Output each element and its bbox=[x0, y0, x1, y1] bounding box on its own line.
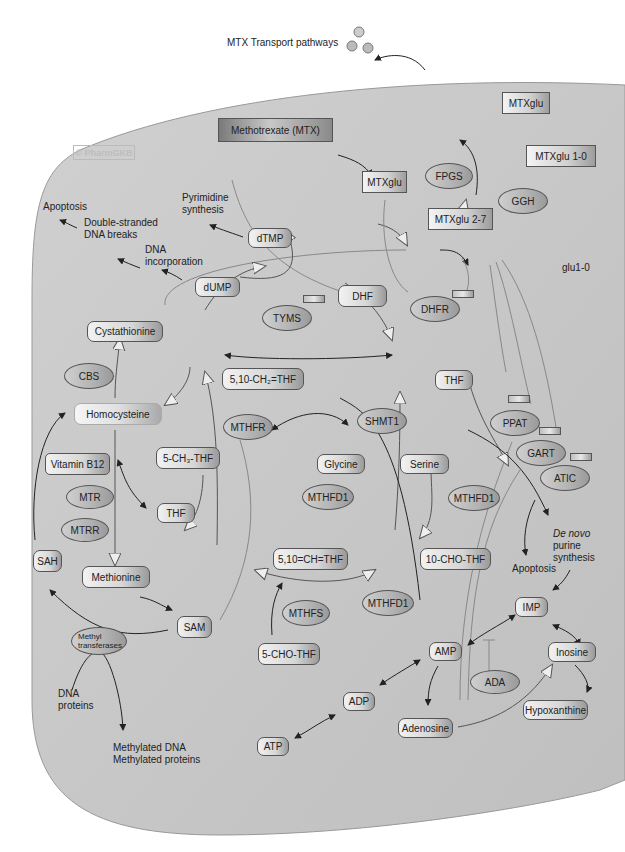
hypoxanthine-node[interactable]: Hypoxanthine bbox=[523, 700, 588, 720]
atp-node[interactable]: ATP bbox=[257, 737, 289, 756]
tyms-enzyme[interactable]: TYMS bbox=[262, 305, 312, 331]
dna-proteins-label: DNAproteins bbox=[58, 688, 94, 712]
methylated-line2: Methylated proteins bbox=[113, 754, 200, 766]
cbs-enzyme[interactable]: CBS bbox=[64, 363, 114, 389]
apoptosis-label-purine: Apoptosis bbox=[512, 563, 556, 575]
dtmp-node[interactable]: dTMP bbox=[248, 228, 292, 248]
transport-molecules-icon bbox=[346, 26, 374, 56]
methylated-products-label: Methylated DNAMethylated proteins bbox=[113, 742, 200, 766]
methylated-line1: Methylated DNA bbox=[113, 742, 200, 754]
fpgs-enzyme[interactable]: FPGS bbox=[425, 163, 473, 189]
serine-node[interactable]: Serine bbox=[400, 454, 449, 474]
adp-node[interactable]: ADP bbox=[343, 692, 375, 711]
mtr-enzyme[interactable]: MTR bbox=[66, 485, 114, 509]
mthfs-enzyme[interactable]: MTHFS bbox=[282, 600, 330, 626]
de-novo-purine-label: De novopurinesynthesis bbox=[553, 528, 595, 564]
imp-node[interactable]: IMP bbox=[515, 597, 548, 617]
inosine-node[interactable]: Inosine bbox=[548, 642, 596, 662]
mtxglu-out-node[interactable]: MTXglu bbox=[502, 92, 550, 114]
mtxglu-2-7-node[interactable]: MTXglu 2-7 bbox=[428, 208, 493, 230]
mthfd1-enzyme-bottom[interactable]: MTHFD1 bbox=[362, 590, 414, 616]
amp-node[interactable]: AMP bbox=[429, 642, 462, 661]
dna-incorp-line2: incorporation bbox=[145, 256, 203, 268]
mtx-pathway-diagram: © PharmGKB MTX Transport pathways Methot… bbox=[0, 0, 625, 852]
mtxglu-node[interactable]: MTXglu bbox=[362, 171, 407, 193]
pyrimidine-line2: synthesis bbox=[182, 204, 229, 216]
dhfr-enzyme[interactable]: DHFR bbox=[410, 296, 460, 322]
homocysteine-node[interactable]: Homocysteine bbox=[74, 403, 162, 425]
glycine-node[interactable]: Glycine bbox=[317, 454, 365, 474]
inhibition-bar-atic bbox=[570, 453, 592, 461]
methyltransferases-enzyme[interactable]: Methyl transferases bbox=[71, 627, 127, 655]
inhibition-bar-gart bbox=[539, 427, 561, 435]
denovo-line1: De novo bbox=[553, 528, 595, 540]
pyrimidine-line1: Pyrimidine bbox=[182, 192, 229, 204]
5-cho-thf-node[interactable]: 5-CHO-THF bbox=[258, 643, 320, 665]
dna-proteins-line1: DNA bbox=[58, 688, 94, 700]
thf-node-left[interactable]: THF bbox=[157, 503, 195, 523]
inhibition-bar-ppat bbox=[508, 395, 530, 403]
dna-incorp-line1: DNA bbox=[145, 244, 203, 256]
inhibition-bar-dhfr bbox=[452, 290, 474, 298]
ch3-thf-node[interactable]: 5-CH₃-THF bbox=[156, 447, 220, 469]
ch2-thf-node[interactable]: 5,10-CH₂=THF bbox=[222, 368, 304, 390]
dsb-line2: DNA breaks bbox=[84, 229, 158, 241]
vitamin-b12-node[interactable]: Vitamin B12 bbox=[45, 453, 110, 475]
atic-enzyme[interactable]: ATIC bbox=[540, 465, 590, 491]
mthfd1-enzyme-upper-left[interactable]: MTHFD1 bbox=[302, 484, 354, 510]
methotrexate-node[interactable]: Methotrexate (MTX) bbox=[218, 118, 333, 142]
dump-node[interactable]: dUMP bbox=[195, 277, 240, 297]
sam-node[interactable]: SAM bbox=[177, 616, 212, 638]
sah-node[interactable]: SAH bbox=[33, 550, 62, 572]
mtxglu-1-0-node[interactable]: MTXglu 1-0 bbox=[526, 145, 596, 167]
denovo-line3: synthesis bbox=[553, 552, 595, 564]
inhibition-bar-tyms bbox=[303, 295, 325, 303]
dna-incorporation-label: DNAincorporation bbox=[145, 244, 203, 268]
denovo-line2: purine bbox=[553, 540, 595, 552]
thf-node[interactable]: THF bbox=[435, 370, 473, 390]
dsb-line1: Double-stranded bbox=[84, 217, 158, 229]
mthfr-enzyme[interactable]: MTHFR bbox=[223, 414, 273, 440]
mthfd1-enzyme-right[interactable]: MTHFD1 bbox=[448, 485, 500, 511]
mtrr-enzyme[interactable]: MTRR bbox=[61, 518, 109, 542]
cystathionine-node[interactable]: Cystathionine bbox=[87, 321, 163, 342]
pyrimidine-synthesis-label: Pyrimidinesynthesis bbox=[182, 192, 229, 216]
adenosine-node[interactable]: Adenosine bbox=[398, 718, 453, 738]
ggh-enzyme[interactable]: GGH bbox=[498, 188, 548, 214]
ch-thf-node[interactable]: 5,10=CH=THF bbox=[273, 548, 348, 570]
dsb-label: Double-strandedDNA breaks bbox=[84, 217, 158, 241]
dhf-node[interactable]: DHF bbox=[338, 285, 387, 307]
ada-enzyme[interactable]: ADA bbox=[470, 670, 520, 694]
ppat-enzyme[interactable]: PPAT bbox=[490, 410, 540, 436]
dna-proteins-line2: proteins bbox=[58, 700, 94, 712]
apoptosis-label-top: Apoptosis bbox=[43, 201, 87, 213]
gart-enzyme[interactable]: GART bbox=[516, 440, 566, 466]
transport-label: MTX Transport pathways bbox=[227, 37, 338, 49]
methionine-node[interactable]: Methionine bbox=[82, 566, 150, 588]
glu1-0-label: glu1-0 bbox=[562, 262, 590, 274]
shmt1-enzyme[interactable]: SHMT1 bbox=[357, 408, 407, 434]
10-cho-thf-node[interactable]: 10-CHO-THF bbox=[420, 548, 491, 570]
pharmgkb-watermark: © PharmGKB bbox=[73, 145, 135, 160]
